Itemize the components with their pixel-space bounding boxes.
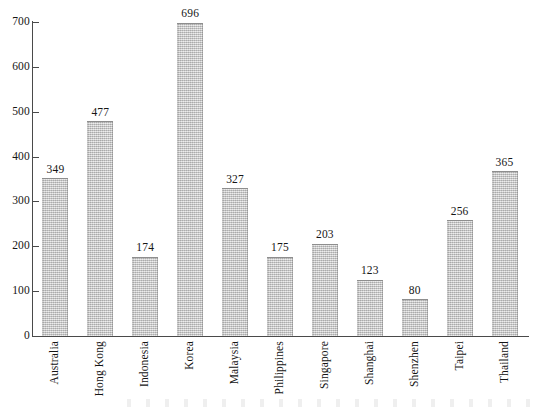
bar	[42, 178, 68, 336]
category-label-slot: Hong Kong	[87, 341, 113, 405]
bar-group: 80	[402, 22, 428, 336]
category-label: Australia	[50, 341, 62, 385]
category-label: Singapore	[319, 341, 331, 389]
bar-group: 365	[492, 22, 518, 336]
category-label-slot: Thailand	[492, 341, 518, 405]
bar	[87, 121, 113, 336]
bar-group: 174	[132, 22, 158, 336]
bar-value-label: 80	[388, 285, 442, 297]
y-axis-tick-label: 100	[2, 285, 30, 297]
category-label-slot: Indonesia	[132, 341, 158, 405]
category-label: Taipei	[454, 341, 466, 370]
bar-group: 349	[42, 22, 68, 336]
bar-value-label: 696	[163, 8, 217, 20]
bar-value-label: 175	[253, 242, 307, 254]
bar-value-label: 327	[208, 174, 262, 186]
category-label: Philippines	[274, 341, 286, 394]
y-axis-tick-label: 300	[2, 195, 30, 207]
bar	[492, 171, 518, 336]
y-axis-tick-label: 200	[2, 240, 30, 252]
bar	[447, 220, 473, 336]
y-axis-tick-label: 500	[2, 106, 30, 118]
category-label: Shenzhen	[409, 341, 421, 387]
category-label-slot: Shanghai	[357, 341, 383, 405]
y-axis-tick-label: 0	[2, 330, 30, 342]
category-label: Korea	[184, 341, 196, 370]
bar-group: 256	[447, 22, 473, 336]
bar-group: 696	[177, 22, 203, 336]
bars-layer: 34947717469632717520312380256365	[33, 22, 527, 336]
bar	[267, 257, 293, 337]
bar	[312, 244, 338, 336]
category-label-slot: Korea	[177, 341, 203, 405]
bar	[177, 23, 203, 336]
category-label-slot: Philippines	[267, 341, 293, 405]
bar-value-label: 477	[73, 107, 127, 119]
category-label: Indonesia	[140, 341, 152, 387]
scan-artifact	[120, 399, 530, 407]
x-axis-line	[32, 336, 529, 337]
bar	[357, 280, 383, 336]
bar-value-label: 365	[478, 157, 532, 169]
bar-value-label: 203	[298, 229, 352, 241]
category-label-slot: Singapore	[312, 341, 338, 405]
bar-group: 203	[312, 22, 338, 336]
bar-group: 175	[267, 22, 293, 336]
bar-group: 327	[222, 22, 248, 336]
category-label-slot: Australia	[42, 341, 68, 405]
y-axis-tick-label: 700	[2, 16, 30, 28]
bar-value-label: 256	[433, 206, 487, 218]
category-label: Hong Kong	[95, 341, 107, 396]
bar-value-label: 349	[28, 164, 82, 176]
y-axis-tick-label: 600	[2, 61, 30, 73]
y-axis-tick	[33, 336, 39, 337]
category-label-slot: Shenzhen	[402, 341, 428, 405]
category-label: Shanghai	[364, 341, 376, 385]
category-label-slot: Taipei	[447, 341, 473, 405]
y-axis-tick-label: 400	[2, 151, 30, 163]
bar-value-label: 123	[343, 265, 397, 277]
bar	[132, 257, 158, 336]
bar	[222, 188, 248, 336]
category-label-slot: Malaysia	[222, 341, 248, 405]
category-label: Malaysia	[229, 341, 241, 384]
bar-group: 477	[87, 22, 113, 336]
bar-group: 123	[357, 22, 383, 336]
category-label: Thailand	[499, 341, 511, 383]
bar-chart: 0100200300400500600700 34947717469632717…	[0, 0, 543, 408]
bar-value-label: 174	[118, 242, 172, 254]
bar	[402, 299, 428, 336]
